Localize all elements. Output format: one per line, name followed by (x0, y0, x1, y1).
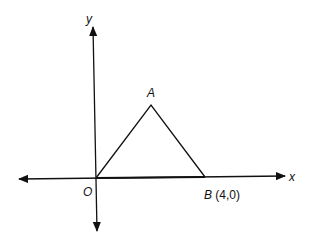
x-axis-label: x (289, 171, 295, 183)
triangle-oab (96, 105, 205, 178)
point-b-label: B (4,0) (204, 189, 240, 201)
point-b-name: B (204, 188, 212, 202)
segment-ob (96, 177, 205, 178)
y-axis-label: y (86, 13, 92, 25)
point-b-coords: (4,0) (215, 188, 240, 202)
diagram-canvas: y x O A B (4,0) (0, 0, 310, 244)
diagram-svg (0, 0, 310, 244)
origin-label: O (83, 186, 92, 198)
point-a-label: A (147, 87, 155, 99)
y-axis (93, 27, 97, 231)
